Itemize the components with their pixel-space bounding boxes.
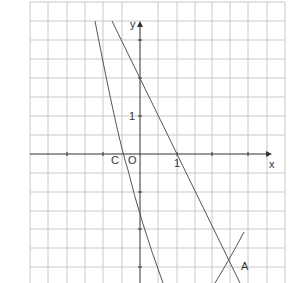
point-a-label: A	[241, 260, 249, 272]
grid	[30, 2, 285, 283]
x-axis-label: x	[269, 158, 275, 170]
y-axis-label: y	[130, 18, 136, 30]
y-axis-arrow-icon	[137, 21, 143, 27]
x-axis-arrow-icon	[266, 151, 272, 157]
coordinate-graph: y x 1 1 O C A	[0, 0, 297, 283]
origin-label: O	[128, 154, 137, 166]
straight-line	[112, 21, 240, 283]
y-tick-label: 1	[129, 110, 135, 122]
axes	[30, 26, 266, 283]
point-c-label: C	[111, 154, 119, 166]
steep-curve	[95, 21, 163, 283]
x-tick-label: 1	[174, 157, 180, 169]
